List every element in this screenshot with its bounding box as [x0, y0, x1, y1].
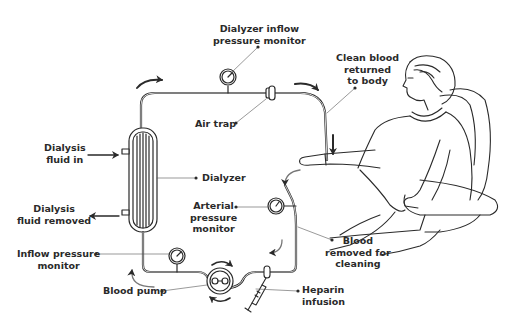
- label-line: Blood: [325, 235, 391, 247]
- label-line: fluid removed: [17, 215, 91, 227]
- label-line: cleaning: [325, 258, 391, 270]
- label-line: Clean blood: [336, 52, 399, 64]
- label-blood-removed-for-cleaning: Blood removed for cleaning: [325, 235, 391, 270]
- label-line: monitor: [190, 223, 237, 235]
- label-dialyzer-inflow-pressure-monitor: Dialyzer inflow pressure monitor: [213, 23, 306, 46]
- label-line: Heparin: [302, 284, 345, 296]
- label-line: Inflow pressure: [17, 248, 100, 260]
- label-line: Dialyzer inflow: [213, 23, 306, 35]
- label-line: Arterial: [190, 200, 237, 212]
- label-inflow-pressure-monitor: Inflow pressure monitor: [17, 248, 100, 271]
- hemodialysis-diagram: Dialyzer inflow pressure monitor Clean b…: [0, 0, 518, 327]
- label-arterial-pressure-monitor: Arterial pressure monitor: [190, 200, 237, 235]
- label-dialyzer: Dialyzer: [202, 172, 246, 184]
- label-dialysis-fluid-in: Dialysis fluid in: [44, 142, 86, 165]
- inflow-gauge-icon: [169, 248, 185, 272]
- label-line: to body: [336, 75, 399, 87]
- label-blood-pump: Blood pump: [103, 285, 167, 297]
- blood-pump-icon: [207, 262, 233, 302]
- label-line: Dialysis: [44, 142, 86, 154]
- air-trap-icon: [266, 86, 275, 100]
- label-heparin-infusion: Heparin infusion: [302, 284, 345, 307]
- label-line: infusion: [302, 296, 345, 308]
- label-line: removed for: [325, 247, 391, 259]
- label-line: pressure monitor: [213, 35, 306, 47]
- label-line: fluid in: [44, 154, 86, 166]
- label-line: pressure: [190, 212, 237, 224]
- dialyzer-inflow-gauge-icon: [220, 69, 236, 93]
- label-line: returned: [336, 64, 399, 76]
- label-dialysis-fluid-removed: Dialysis fluid removed: [17, 203, 91, 226]
- dialyzer-icon: [122, 128, 157, 232]
- label-clean-blood-returned: Clean blood returned to body: [336, 52, 399, 87]
- label-line: Dialysis: [17, 203, 91, 215]
- label-air-trap: Air trap: [195, 118, 236, 130]
- label-line: monitor: [17, 260, 100, 272]
